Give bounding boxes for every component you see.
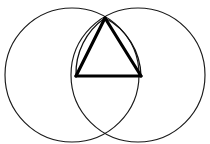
figure-canvas — [0, 0, 210, 144]
geometric-construction-svg — [0, 0, 210, 144]
